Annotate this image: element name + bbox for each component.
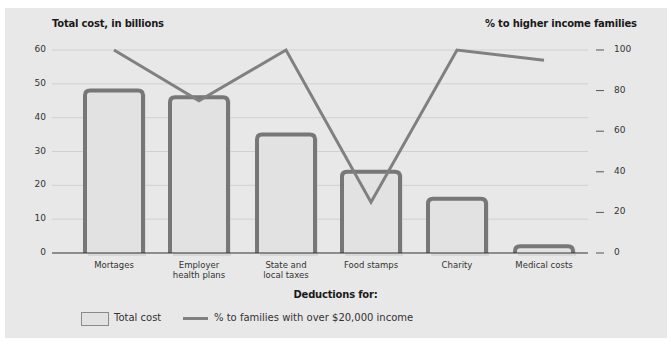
bar <box>515 246 573 253</box>
category-label: Food stamps <box>326 260 416 270</box>
right-axis-title: % to higher income families <box>485 18 637 29</box>
left-tick-label: 50 <box>30 78 46 88</box>
left-tick-label: 0 <box>30 247 46 257</box>
left-tick-label: 10 <box>30 213 46 223</box>
right-tick-label: 60 <box>614 125 625 135</box>
category-label: Charity <box>412 260 502 270</box>
legend-line-swatch <box>183 317 208 320</box>
category-label: Mortages <box>69 260 159 270</box>
legend-bar-swatch <box>81 312 109 326</box>
bar <box>257 135 315 253</box>
right-tick-label: 40 <box>614 166 625 176</box>
left-tick-label: 40 <box>30 112 46 122</box>
right-tick-label: 0 <box>614 247 620 257</box>
left-tick-label: 20 <box>30 179 46 189</box>
left-tick-label: 60 <box>30 44 46 54</box>
category-label: State andlocal taxes <box>241 260 331 280</box>
right-tick-label: 80 <box>614 85 625 95</box>
category-label: Employerhealth plans <box>154 260 244 280</box>
left-tick-label: 30 <box>30 146 46 156</box>
right-tick-label: 20 <box>614 206 625 216</box>
bar <box>428 199 486 253</box>
legend-line-label: % to families with over $20,000 income <box>214 312 413 323</box>
bar <box>85 91 143 253</box>
x-axis-title: Deductions for: <box>0 289 671 300</box>
left-axis-title: Total cost, in billions <box>52 18 164 29</box>
legend-bar-label: Total cost <box>114 312 161 323</box>
category-label: Medical costs <box>499 260 589 270</box>
right-tick-label: 100 <box>614 44 631 54</box>
bar <box>170 97 228 253</box>
bar <box>342 172 400 253</box>
